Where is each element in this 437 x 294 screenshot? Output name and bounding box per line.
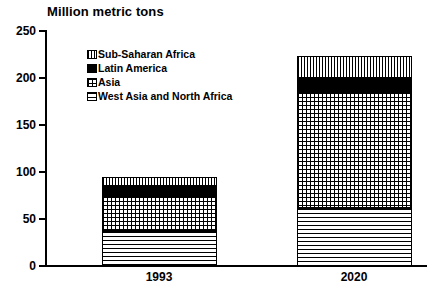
bar-1993-segment-west-asia-and-north-africa: [102, 231, 217, 266]
y-axis-label-50: 50: [2, 212, 36, 226]
legend-label-sub-saharan-africa: Sub-Saharan Africa: [98, 49, 195, 60]
legend-item-latin-america: Latin America: [87, 62, 232, 74]
bar-1993-segment-sub-saharan-africa: [102, 177, 217, 185]
legend-label-west-asia-and-north-africa: West Asia and North Africa: [98, 91, 232, 102]
legend-item-sub-saharan-africa: Sub-Saharan Africa: [87, 48, 232, 60]
legend-item-west-asia-and-north-africa: West Asia and North Africa: [87, 90, 232, 102]
x-axis-label-2020: 2020: [341, 270, 368, 284]
x-axis-label-1993: 1993: [146, 270, 173, 284]
legend-swatch-icon-west-asia-and-north-africa: [87, 92, 97, 101]
legend-swatch-icon-latin-america: [87, 64, 97, 73]
y-axis-label-200: 200: [2, 71, 36, 85]
bar-1993-segment-latin-america: [102, 186, 217, 196]
chart-title: Million metric tons: [47, 4, 164, 19]
y-axis-tick-250: [39, 30, 46, 32]
y-axis-tick-100: [39, 171, 46, 173]
y-axis-tick-50: [39, 218, 46, 220]
y-axis-tick-150: [39, 124, 46, 126]
chart-container: Million metric tons 250 200 150 100 50 0: [0, 0, 437, 294]
bar-2020-segment-sub-saharan-africa: [297, 56, 412, 79]
bar-2020-segment-latin-america: [297, 78, 412, 92]
y-axis-tick-200: [39, 77, 46, 79]
bar-1993-segment-asia: [102, 196, 217, 231]
bar-2020-segment-west-asia-and-north-africa: [297, 208, 412, 266]
legend-label-latin-america: Latin America: [98, 63, 167, 74]
y-axis-tick-0: [39, 265, 46, 267]
legend-item-asia: Asia: [87, 76, 232, 88]
legend-swatch-icon-sub-saharan-africa: [87, 50, 97, 59]
bar-2020-segment-asia: [297, 92, 412, 208]
chart-legend: Sub-Saharan Africa Latin America Asia We…: [87, 48, 232, 104]
y-axis-label-150: 150: [2, 118, 36, 132]
bar-2020[interactable]: [297, 30, 412, 266]
legend-label-asia: Asia: [98, 77, 120, 88]
y-axis-label-0: 0: [2, 259, 36, 273]
legend-swatch-icon-asia: [87, 78, 97, 87]
y-axis-label-250: 250: [2, 24, 36, 38]
y-axis-label-100: 100: [2, 165, 36, 179]
